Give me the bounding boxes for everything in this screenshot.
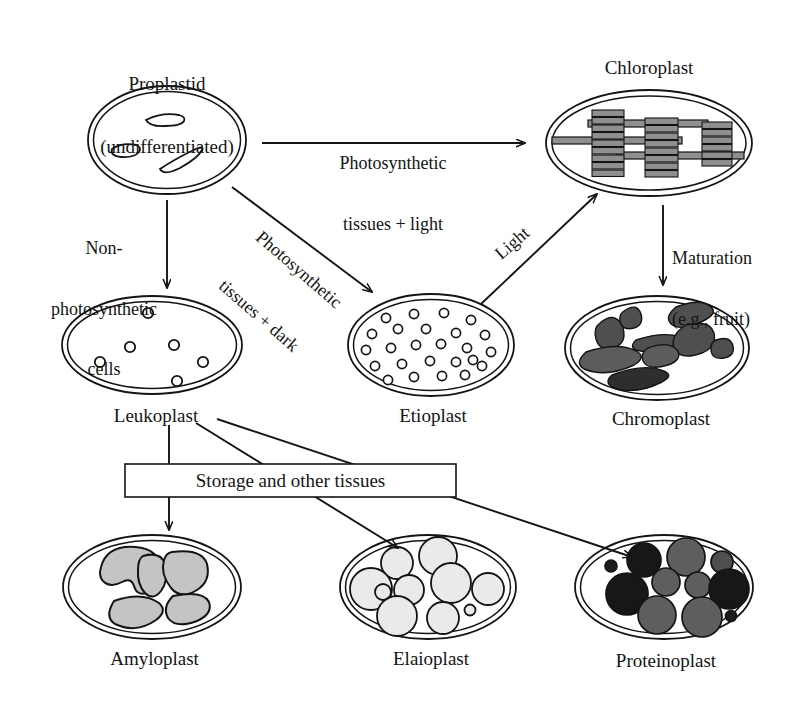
label-amyloplast: Amyloplast [82, 648, 227, 669]
label-leukoplast: Leukoplast [88, 405, 224, 426]
label-proplastid-sublabel: (undifferentiated) [47, 136, 287, 157]
node-elaioplast [340, 535, 516, 639]
node-amyloplast [63, 535, 241, 639]
edge-label-line2: photosynthetic [38, 299, 170, 319]
label-proteinoplast: Proteinoplast [586, 650, 746, 671]
edge-label-nonphotosynthetic-cells: Non- photosynthetic cells [38, 198, 170, 420]
edge-label-line2: (e.g., fruit) [672, 309, 794, 329]
label-etioplast: Etioplast [373, 405, 493, 426]
storage-box-label: Storage and other tissues [125, 470, 456, 491]
label-elaioplast: Elaioplast [365, 648, 497, 669]
label-chromoplast: Chromoplast [586, 408, 736, 429]
edge-label-line1: Maturation [672, 248, 794, 268]
plastid-differentiation-diagram: Proplastid (undifferentiated) Chloroplas… [0, 0, 795, 703]
edge-label-line1: Photosynthetic [303, 153, 483, 173]
label-proplastid-name: Proplastid [47, 73, 287, 94]
label-chloroplast: Chloroplast [569, 57, 729, 78]
node-chloroplast [546, 90, 752, 196]
edge-label-maturation: Maturation (e.g., fruit) [672, 208, 794, 369]
node-proteinoplast [575, 535, 753, 639]
label-proplastid: Proplastid (undifferentiated) [47, 30, 287, 200]
edge-label-line3: cells [38, 359, 170, 379]
edge-label-line1: Non- [38, 238, 170, 258]
